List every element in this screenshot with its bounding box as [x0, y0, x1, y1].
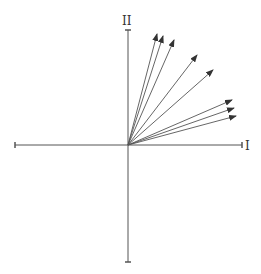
vector-arrow-6 [128, 100, 232, 145]
axes [15, 30, 242, 262]
axis-label-II: II [122, 14, 132, 28]
vector-diagram: I II [0, 0, 261, 274]
vector-arrow-7 [128, 108, 234, 145]
axis-label-I: I [245, 139, 250, 153]
vectors-group [128, 34, 236, 145]
vector-arrow-2 [128, 36, 163, 145]
vector-arrow-4 [128, 55, 197, 145]
